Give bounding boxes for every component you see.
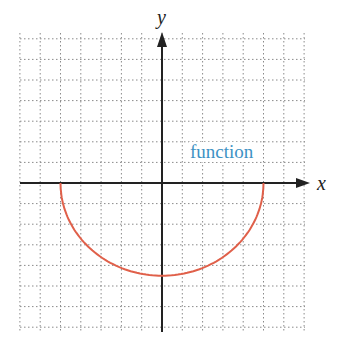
function-label: function [189, 142, 254, 162]
x-axis-arrow-icon [296, 178, 310, 188]
x-axis [20, 178, 310, 188]
x-axis-label: x [317, 172, 326, 195]
y-axis-arrow-icon [157, 32, 167, 47]
y-axis-label: y [157, 6, 166, 29]
chart-canvas [0, 0, 340, 364]
